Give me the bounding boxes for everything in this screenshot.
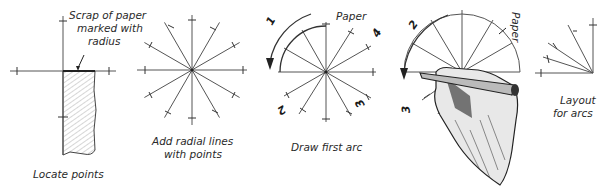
step-number-3: 3 [399, 105, 413, 114]
annotation-scrap-line2: marked with [77, 22, 143, 34]
caption-locate-points: Locate points [33, 168, 104, 180]
panel-layout-for-arcs [535, 18, 597, 77]
panel-radial-lines [137, 15, 247, 125]
step-number-1: 1 [263, 14, 278, 27]
step-number-3: 3 [352, 97, 367, 110]
step-number-4: 4 [369, 26, 385, 40]
step-number-2: 2 [406, 18, 421, 32]
paper-scrap [63, 71, 96, 155]
panel-draw-second-arc: 2 3 Paper [399, 10, 522, 185]
caption-layout-line2: for arcs [553, 107, 593, 119]
arrow-head-icon [400, 68, 408, 80]
caption-radial-line1: Add radial lines [151, 135, 234, 147]
annotation-paper: Paper [510, 12, 522, 43]
annotation-paper: Paper [336, 10, 367, 22]
annotation-scrap-line1: Scrap of paper [69, 9, 147, 21]
caption-draw-first-arc: Draw first arc [291, 141, 363, 153]
step-number-2: 2 [275, 102, 288, 117]
panel-draw-first-arc: Paper 1 2 3 4 Draw first arc [263, 10, 384, 153]
panel-locate-points: Scrap of paper marked with radius Locate… [10, 9, 147, 180]
arrow-head-icon [266, 58, 274, 70]
caption-radial-line2: with points [164, 148, 222, 160]
caption-layout-line1: Layout [560, 94, 597, 106]
annotation-scrap-line3: radius [88, 35, 121, 47]
arc-drawing-diagram: Scrap of paper marked with radius Locate… [0, 0, 606, 193]
first-arc [280, 26, 326, 72]
